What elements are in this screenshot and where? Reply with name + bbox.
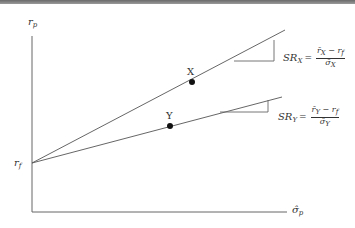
x-axis-label: σ̂p bbox=[292, 205, 303, 217]
point-y-label: Y bbox=[166, 111, 173, 121]
point-y-dot bbox=[167, 123, 173, 129]
point-x-dot bbox=[189, 79, 195, 85]
line-x bbox=[32, 30, 285, 163]
sharpe-ratio-y-formula: SRY = r̄Y − rf σ̂Y bbox=[278, 106, 339, 128]
y-axis-label: rp bbox=[28, 17, 37, 29]
intercept-label: rf bbox=[14, 158, 21, 170]
line-y bbox=[32, 97, 282, 163]
slope-triangle-x bbox=[234, 40, 274, 61]
sharpe-ratio-x-formula: SRX = r̄X − rf σ̂X bbox=[283, 47, 345, 69]
point-x-label: X bbox=[187, 67, 194, 77]
slope-triangle-y bbox=[220, 100, 268, 112]
